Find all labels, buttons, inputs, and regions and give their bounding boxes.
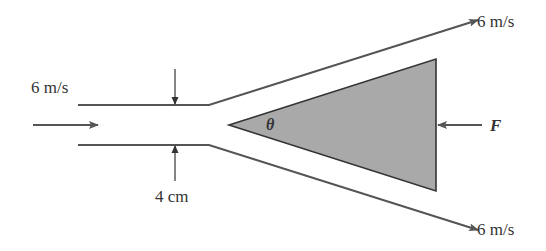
wedge-body xyxy=(229,59,436,191)
angle-theta-label: θ xyxy=(266,117,274,133)
pipe-diameter-label: 4 cm xyxy=(155,188,189,205)
inlet-velocity-label: 6 m/s xyxy=(31,79,68,96)
upper-outlet-velocity-label: 6 m/s xyxy=(477,13,514,30)
force-label: F xyxy=(490,117,501,134)
lower-outlet-velocity-label: 6 m/s xyxy=(477,221,514,238)
jet-deflection-diagram: 6 m/s 4 cm 6 m/s 6 m/s θ F xyxy=(0,0,546,251)
